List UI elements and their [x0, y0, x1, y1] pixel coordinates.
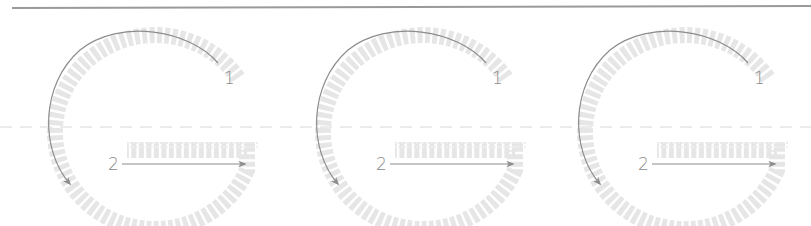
stroke-2-label: 2: [638, 154, 649, 174]
panel-1: 1 2: [49, 31, 258, 226]
letter-g-outline-icon: [317, 31, 526, 226]
panel-2: 1 2: [317, 31, 526, 226]
panel-3: 1 2: [579, 31, 788, 226]
stroke-2-label: 2: [376, 154, 387, 174]
stroke-1-label: 1: [492, 68, 503, 88]
stroke-1-label: 1: [224, 68, 235, 88]
stroke-order-diagram: 1 2 1 2 1 2: [0, 0, 811, 226]
top-rule: [12, 6, 811, 8]
stroke-2-label: 2: [108, 154, 119, 174]
letter-g-outline-icon: [579, 31, 788, 226]
stroke-1-label: 1: [754, 68, 765, 88]
letter-g-outline-icon: [49, 31, 258, 226]
